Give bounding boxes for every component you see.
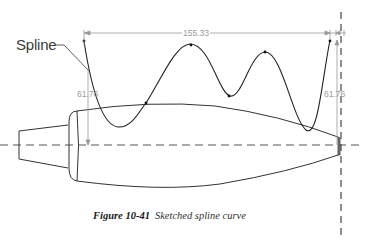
right-height-dimension-value[interactable]: 61.76	[323, 89, 346, 99]
body-top-edge	[77, 104, 338, 137]
spline-point[interactable]	[145, 102, 148, 105]
spline-point[interactable]	[329, 40, 332, 43]
left-vertical-dimension	[86, 70, 90, 145]
horizontal-dimension-value[interactable]: 155.33	[182, 28, 210, 38]
spline-point[interactable]	[228, 95, 231, 98]
left-height-dimension-value[interactable]: 61.76	[76, 89, 99, 99]
spline-points	[83, 40, 332, 105]
nozzle-tip	[19, 125, 68, 168]
flange-inner	[77, 111, 79, 181]
spline-point[interactable]	[190, 44, 193, 47]
sketch-canvas: Spline 155.33 61.76 61.76 Figure 10-41Sk…	[0, 0, 376, 242]
horizontal-dimension	[84, 30, 346, 46]
flange	[69, 111, 77, 181]
figure-caption-text: Sketched spline curve	[155, 210, 246, 221]
spline-curve[interactable]	[84, 40, 330, 131]
figure-caption: Figure 10-41Sketched spline curve	[93, 210, 246, 221]
spline-point[interactable]	[264, 51, 267, 54]
figure-number: Figure 10-41	[93, 210, 150, 221]
body-bottom-edge	[77, 155, 338, 187]
spline-callout-label: Spline	[16, 36, 57, 53]
end-cap	[338, 137, 340, 155]
